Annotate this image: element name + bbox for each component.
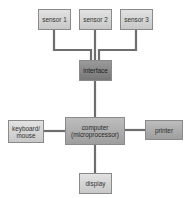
computer-system-diagram: sensor 1 sensor 2 sensor 3 interface com… xyxy=(0,0,192,198)
sensor-2-box: sensor 2 xyxy=(79,9,112,30)
keyboard-label-line2: mouse xyxy=(16,132,35,139)
display-label: display xyxy=(86,180,106,187)
computer-label-line1: computer xyxy=(82,124,109,131)
sensor-3-label: sensor 3 xyxy=(124,16,149,23)
display-box: display xyxy=(79,173,112,194)
sensor-2-label: sensor 2 xyxy=(83,16,108,23)
sensor-1-box: sensor 1 xyxy=(38,9,71,30)
keyboard-label-line1: keyboard/ xyxy=(12,125,40,132)
interface-label: interface xyxy=(83,67,108,74)
connector-sensor3-interface xyxy=(99,30,136,60)
connector-sensor1-interface xyxy=(54,30,91,60)
printer-label: printer xyxy=(155,127,173,134)
printer-box: printer xyxy=(145,120,183,140)
keyboard-mouse-box: keyboard/ mouse xyxy=(8,120,44,143)
sensor-1-label: sensor 1 xyxy=(42,16,67,23)
sensor-3-box: sensor 3 xyxy=(120,9,153,30)
interface-box: interface xyxy=(79,60,112,81)
computer-label-line2: (microprocessor) xyxy=(71,131,119,138)
computer-box: computer (microprocessor) xyxy=(65,117,125,145)
